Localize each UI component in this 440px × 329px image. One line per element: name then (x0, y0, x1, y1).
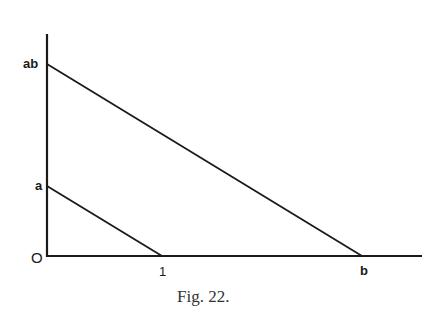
label-1: 1 (159, 265, 166, 278)
label-ab: ab (23, 57, 38, 70)
label-b: b (360, 264, 368, 277)
figure-caption: Fig. 22. (177, 288, 229, 305)
label-a: a (35, 179, 42, 192)
diagram-canvas (0, 0, 440, 329)
line-a-to-1 (47, 186, 162, 256)
line-ab-to-b (47, 64, 362, 256)
label-origin: O (31, 250, 43, 265)
